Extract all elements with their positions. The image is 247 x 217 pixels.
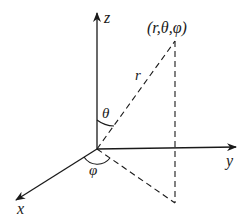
x-axis bbox=[16, 149, 97, 200]
xy-projection-line bbox=[97, 149, 175, 203]
spherical-coordinates-diagram: z y x (r,θ,φ) r θ φ bbox=[0, 0, 247, 217]
x-axis-label: x bbox=[16, 200, 24, 217]
z-axis-label: z bbox=[103, 9, 111, 26]
radius-line bbox=[97, 41, 175, 149]
theta-label: θ bbox=[102, 105, 110, 121]
radius-label: r bbox=[135, 67, 141, 83]
y-axis bbox=[97, 147, 236, 149]
phi-label: φ bbox=[89, 162, 97, 178]
y-axis-label: y bbox=[224, 152, 234, 170]
point-label: (r,θ,φ) bbox=[147, 19, 187, 37]
